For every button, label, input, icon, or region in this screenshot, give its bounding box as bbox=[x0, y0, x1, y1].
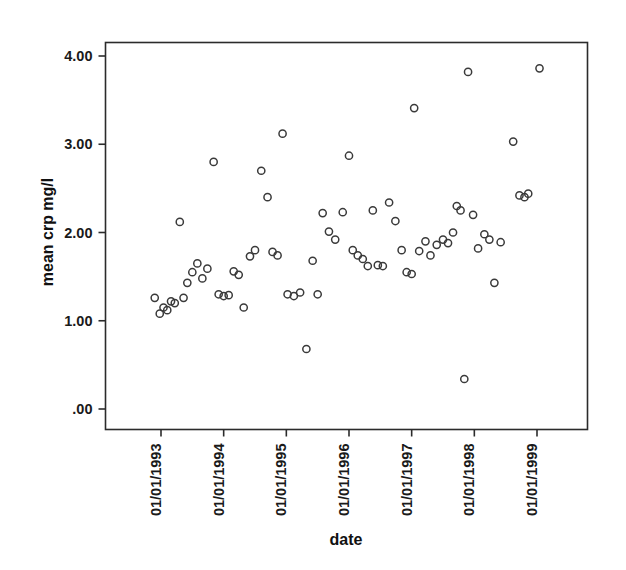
x-tick-label: 01/01/1996 bbox=[336, 444, 352, 517]
chart-figure: 4.003.002.001.00.00 01/01/199301/01/1994… bbox=[0, 0, 626, 570]
x-tick-label: 01/01/1997 bbox=[399, 444, 415, 517]
x-tick-label: 01/01/1999 bbox=[524, 444, 540, 517]
y-tick-label: .00 bbox=[72, 401, 92, 417]
x-axis-title: date bbox=[330, 531, 363, 548]
y-axis-title: mean crp mg/l bbox=[39, 178, 56, 286]
y-tick-label: 4.00 bbox=[64, 48, 92, 64]
scatter-plot-svg: 4.003.002.001.00.00 01/01/199301/01/1994… bbox=[0, 0, 626, 570]
x-axis-title-text: date bbox=[330, 531, 363, 548]
x-tick-label: 01/01/1995 bbox=[273, 444, 289, 517]
y-axis-title-text: mean crp mg/l bbox=[39, 178, 56, 286]
x-tick-label: 01/01/1994 bbox=[211, 444, 227, 517]
y-tick-label: 1.00 bbox=[64, 313, 92, 329]
x-tick-label: 01/01/1993 bbox=[148, 444, 164, 517]
x-tick-label: 01/01/1998 bbox=[461, 444, 477, 517]
y-tick-label: 2.00 bbox=[64, 225, 92, 241]
y-tick-label: 3.00 bbox=[64, 136, 92, 152]
